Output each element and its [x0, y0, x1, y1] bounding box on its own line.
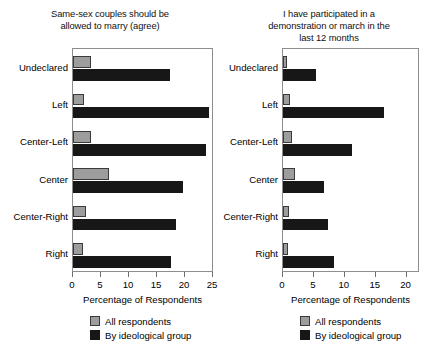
x-tick-mark-10 [128, 272, 129, 277]
chart-panel-left: Same-sex couples should be allowed to ma… [0, 0, 219, 360]
plot-area-right [282, 48, 419, 272]
category-label-center-left: Center-Left [0, 136, 68, 147]
bar-center-all-respondents [73, 168, 109, 180]
legend-item-all-respondents: All respondents [90, 314, 191, 328]
legend-right: All respondents By ideological group [300, 314, 401, 342]
x-tick-label-0: 0 [270, 279, 294, 290]
bar-undeclared-ideological-group [73, 69, 170, 81]
x-tick-mark-15 [156, 272, 157, 277]
x-tick-label-0: 0 [60, 279, 84, 290]
bar-center-ideological-group [73, 181, 183, 193]
x-tick-label-15: 15 [144, 279, 168, 290]
legend-item-all-respondents: All respondents [300, 314, 401, 328]
chart-title-right-line-1: I have participated in a [229, 8, 429, 20]
figure-root: Same-sex couples should be allowed to ma… [0, 0, 438, 360]
legend-swatch-ideological-group-icon [300, 330, 310, 340]
legend-item-ideological-group: By ideological group [90, 328, 191, 342]
chart-title-left-line-2: allowed to marry (agree) [10, 20, 210, 32]
legend-label-all-respondents: All respondents [315, 316, 381, 327]
bar-right-ideological-group [283, 256, 334, 268]
x-tick-label-10: 10 [332, 279, 356, 290]
category-label-center-right: Center-Right [0, 211, 68, 222]
legend-label-all-respondents: All respondents [105, 316, 171, 327]
x-tick-mark-15 [375, 272, 376, 277]
bar-right-ideological-group [73, 256, 171, 268]
bar-undeclared-ideological-group [283, 69, 316, 81]
bar-right-all-respondents [73, 243, 83, 255]
bar-left-all-respondents [283, 94, 290, 106]
x-tick-mark-5 [100, 272, 101, 277]
x-tick-label-20: 20 [172, 279, 196, 290]
bar-center-left-all-respondents [283, 131, 292, 143]
x-tick-label-5: 5 [301, 279, 325, 290]
category-label-center-left: Center-Left [219, 136, 278, 147]
bar-center-left-ideological-group [73, 144, 206, 156]
bar-center-all-respondents [283, 168, 295, 180]
x-tick-mark-5 [313, 272, 314, 277]
x-tick-mark-0 [72, 272, 73, 277]
legend-swatch-ideological-group-icon [90, 330, 100, 340]
plot-area-left [72, 48, 213, 272]
bar-left-ideological-group [283, 107, 384, 119]
category-label-right: Right [219, 248, 278, 259]
category-label-center: Center [219, 174, 278, 185]
legend-left: All respondents By ideological group [90, 314, 191, 342]
x-tick-mark-20 [406, 272, 407, 277]
legend-swatch-all-respondents-icon [300, 316, 310, 326]
legend-label-ideological-group: By ideological group [315, 330, 401, 341]
bar-left-ideological-group [73, 107, 209, 119]
x-tick-mark-0 [282, 272, 283, 277]
legend-label-ideological-group: By ideological group [105, 330, 191, 341]
x-tick-mark-10 [344, 272, 345, 277]
chart-title-left: Same-sex couples should be allowed to ma… [10, 8, 210, 32]
chart-title-left-line-1: Same-sex couples should be [10, 8, 210, 20]
bar-center-left-all-respondents [73, 131, 91, 143]
bar-center-left-ideological-group [283, 144, 352, 156]
category-label-center-right: Center-Right [219, 211, 278, 222]
category-label-right: Right [0, 248, 68, 259]
chart-title-right-line-2: demonstration or march in the [229, 20, 429, 32]
bar-center-right-ideological-group [73, 219, 176, 231]
x-axis-title-right: Percentage of Respondents [242, 294, 438, 305]
category-label-left: Left [0, 99, 68, 110]
bar-center-right-ideological-group [283, 219, 328, 231]
bar-center-right-all-respondents [73, 206, 86, 218]
bar-right-all-respondents [283, 243, 288, 255]
chart-panel-right: I have participated in a demonstration o… [219, 0, 438, 360]
legend-swatch-all-respondents-icon [90, 316, 100, 326]
bar-left-all-respondents [73, 94, 84, 106]
chart-title-right: I have participated in a demonstration o… [229, 8, 429, 45]
x-tick-label-5: 5 [88, 279, 112, 290]
category-label-left: Left [219, 99, 278, 110]
category-label-undeclared: Undeclared [0, 62, 68, 73]
chart-title-right-line-3: last 12 months [229, 32, 429, 44]
x-tick-mark-20 [184, 272, 185, 277]
x-tick-label-10: 10 [116, 279, 140, 290]
bar-undeclared-all-respondents [283, 56, 287, 68]
bar-center-ideological-group [283, 181, 324, 193]
x-tick-label-15: 15 [363, 279, 387, 290]
category-label-undeclared: Undeclared [219, 62, 278, 73]
bars-layer-right [283, 49, 418, 271]
x-tick-label-20: 20 [394, 279, 418, 290]
legend-item-ideological-group: By ideological group [300, 328, 401, 342]
x-tick-mark-25 [212, 272, 213, 277]
bar-center-right-all-respondents [283, 206, 289, 218]
bars-layer-left [73, 49, 212, 271]
category-label-center: Center [0, 174, 68, 185]
bar-undeclared-all-respondents [73, 56, 91, 68]
